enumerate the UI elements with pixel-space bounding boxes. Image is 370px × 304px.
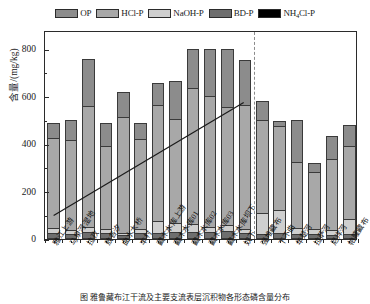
legend-item-nh4cl-p: NH4Cl-P	[258, 9, 314, 18]
figure-caption: 图 雅鲁藏布江干流及主要支流表层沉积物各形态磷含量分布	[0, 291, 370, 302]
y-tick-label: 200	[22, 187, 36, 197]
figure-stacked-bar-chart: OP HCl-P NaOH-P BD-P NH4Cl-P 02004006008…	[0, 0, 370, 304]
trend-line-segment	[54, 103, 244, 216]
y-tick-mark	[44, 73, 47, 74]
legend-label-bd-p: BD-P	[234, 9, 254, 18]
legend-label-hcl-p: HCl-P	[121, 9, 143, 18]
y-tick-mark	[44, 121, 47, 122]
legend-swatch-bd-p	[209, 9, 232, 18]
legend-label-nh4cl-p: NH4Cl-P	[283, 9, 314, 18]
legend-label-op: OP	[80, 9, 91, 18]
legend-label-naoh-p: NaOH-P	[173, 9, 203, 18]
y-tick-label: 800	[22, 44, 36, 54]
legend-swatch-op	[55, 9, 78, 18]
legend-item-bd-p: BD-P	[209, 9, 254, 18]
y-tick-mark	[44, 216, 47, 217]
y-tick-label: 400	[22, 139, 36, 149]
y-axis-label: 含量/(mg/kg)	[6, 30, 20, 120]
legend-swatch-naoh-p	[148, 9, 171, 18]
y-tick-mark	[44, 145, 49, 146]
y-tick-label: 0	[31, 234, 36, 244]
y-tick-label: 600	[22, 92, 36, 102]
y-tick-mark	[44, 50, 49, 51]
legend-swatch-nh4cl-p	[258, 9, 281, 18]
legend-swatch-hcl-p	[96, 9, 119, 18]
y-tick-mark	[44, 97, 49, 98]
legend-item-hcl-p: HCl-P	[96, 9, 143, 18]
y-tick-mark	[44, 192, 49, 193]
legend-item-op: OP	[55, 9, 91, 18]
y-tick-mark	[44, 168, 47, 169]
chart-legend: OP HCl-P NaOH-P BD-P NH4Cl-P	[0, 9, 370, 18]
legend-item-naoh-p: NaOH-P	[148, 9, 203, 18]
trend-line	[45, 32, 356, 239]
